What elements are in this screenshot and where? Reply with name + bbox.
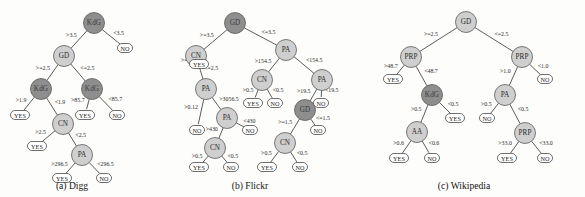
tree-node: PA	[217, 108, 238, 129]
edge-label: >0.5	[481, 101, 492, 107]
node-label: GD	[300, 106, 311, 114]
node-label: PA	[318, 76, 327, 84]
tree-edge	[203, 156, 208, 162]
tree-node: PA	[196, 79, 217, 100]
panel-caption: (a) Digg	[56, 180, 88, 192]
node-label: AA	[412, 128, 423, 136]
edge-label: <0.5	[228, 153, 239, 159]
tree-edge	[271, 151, 279, 162]
leaf-label: YES	[449, 115, 461, 122]
decision-tree-figure: >3.5<3.5>=2.5<=2.5>1.9<1.9>85.7<85.7>2.5…	[0, 0, 585, 197]
edge-label: >296.5	[51, 161, 68, 167]
tree-node: PRP	[512, 47, 533, 68]
tree-leaf: NO	[110, 111, 125, 120]
edge-label: >1.0	[500, 68, 511, 74]
tree-node: PRP	[401, 47, 422, 68]
edge-label: <0.5	[297, 150, 308, 156]
tree-node: PA	[312, 70, 333, 91]
node-label: CN	[257, 76, 268, 84]
edge-label: >0.5	[261, 150, 272, 156]
node-label: CN	[210, 144, 221, 152]
leaf-label: NO	[316, 100, 326, 107]
tree-leaf: YES	[498, 154, 517, 163]
tree-node: KdG	[84, 13, 105, 34]
leaf-label: YES	[14, 112, 26, 119]
edge-label: >0.5	[411, 106, 422, 112]
edge-label: >=1.5	[278, 119, 292, 125]
edge-label: <1.9	[55, 99, 66, 105]
edge-label: >0.5	[243, 87, 254, 93]
tree-leaf: YES	[11, 111, 30, 120]
tree-leaf: NO	[243, 126, 258, 135]
edge-label: >19.5	[297, 88, 311, 94]
tree-leaf: YES	[190, 163, 209, 172]
leaf-label: NO	[540, 76, 550, 83]
edge-label: >33.0	[498, 140, 512, 146]
tree-node: AA	[407, 122, 428, 143]
edge-label: >85.7	[71, 97, 85, 103]
edge-label: >154.5	[255, 58, 272, 64]
tree-node: GD	[295, 100, 316, 121]
tree-leaf: NO	[538, 154, 553, 163]
panel-caption: (c) Wikipedia	[438, 180, 491, 192]
tree-node: PA	[495, 85, 516, 106]
tree-node: KdG	[82, 79, 103, 100]
edge-label: <0.5	[448, 101, 459, 107]
tree-leaf: NO	[538, 75, 553, 84]
tree-leaf: NO	[224, 163, 239, 172]
node-label: GD	[230, 19, 241, 27]
tree-leaf: NO	[314, 99, 329, 108]
edge-label: <2.5	[75, 132, 86, 138]
tree-leaf: NO	[425, 154, 440, 163]
tree-edge	[222, 156, 227, 162]
edge-label: <0.6	[429, 140, 440, 146]
tree-leaf: NO	[268, 99, 283, 108]
node-label: GD	[461, 18, 472, 26]
edge-label: >=2.5	[424, 31, 438, 37]
node-label: PA	[202, 85, 211, 93]
node-label: PA	[501, 91, 510, 99]
tree-node: GD	[225, 13, 246, 34]
node-label: PRP	[404, 53, 417, 61]
edge-label: >430	[206, 126, 218, 132]
tree-leaf: YES	[244, 99, 263, 108]
leaf-label: NO	[226, 164, 236, 171]
tree-leaf: YES	[258, 163, 277, 172]
tree-leaf: YES	[384, 75, 403, 84]
tree-node: CN	[252, 70, 273, 91]
edge-label: >1.9	[16, 97, 27, 103]
tree-edge	[397, 65, 405, 74]
tree-leaf: YES	[190, 60, 209, 69]
leaf-label: NO	[270, 100, 280, 107]
leaf-label: NO	[245, 127, 255, 134]
edge-label: <1.0	[538, 63, 549, 69]
tree-leaf: NO	[311, 126, 326, 135]
edge-label: <430	[243, 118, 255, 124]
leaf-label: NO	[540, 155, 550, 162]
tree-leaf: YES	[76, 111, 95, 120]
leaf-label: YES	[247, 100, 259, 107]
tree-node: PA	[72, 145, 93, 166]
leaf-label: YES	[193, 164, 205, 171]
tree-node: KdG	[31, 79, 52, 100]
edge-label: >0.5	[192, 153, 203, 159]
tree-leaf: NO	[118, 44, 133, 53]
edge-label: <85.7	[108, 96, 122, 102]
edge-label: >3056.5	[219, 96, 239, 102]
edge-label: <296.5	[97, 161, 114, 167]
edge-label: >48.7	[384, 63, 398, 69]
leaf-label: YES	[393, 155, 405, 162]
edge-label: >0.12	[184, 104, 198, 110]
edge-label: <33.0	[539, 140, 553, 146]
tree-node: GD	[456, 12, 477, 33]
node-label: PRP	[515, 53, 528, 61]
leaf-label: YES	[261, 164, 273, 171]
node-label: KdG	[425, 91, 439, 99]
edge-label: >2.5	[35, 129, 46, 135]
edge-label: >=2.5	[36, 65, 50, 71]
node-label: PA	[223, 114, 232, 122]
node-label: GD	[59, 52, 70, 60]
tree-edge	[491, 103, 499, 113]
edge-label: <=2.5	[80, 65, 94, 71]
node-label: KdG	[34, 85, 48, 93]
